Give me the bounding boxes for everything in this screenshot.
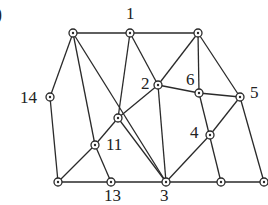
edge-B-6 [198,33,199,93]
node-label-1: 1 [126,4,135,23]
node-center-dot [110,181,112,183]
node-center-dot [263,181,265,183]
edge-2-3 [158,85,166,182]
edge-14-D [50,97,58,182]
node-center-dot [239,96,241,98]
node-label-14: 14 [20,88,38,107]
node-center-dot [220,181,222,183]
node-center-dot [72,32,74,34]
edge-C-2 [118,85,158,118]
edge-4-3 [166,135,210,182]
node-label-3: 3 [160,186,169,205]
edge-5-F [240,97,264,182]
edge-B-5 [198,33,240,97]
graph-edges [50,33,264,182]
node-center-dot [117,117,119,119]
node-center-dot [209,134,211,136]
node-label-11: 11 [106,135,122,154]
node-label-4: 4 [190,123,199,142]
node-label-5: 5 [250,83,259,102]
node-center-dot [94,144,96,146]
edge-A-14 [50,33,73,97]
edge-6-5 [199,93,240,97]
edge-1-C [118,33,130,118]
node-center-dot [165,181,167,183]
node-label-2: 2 [141,74,150,93]
edge-D-11 [58,145,95,182]
node-center-dot [197,32,199,34]
node-center-dot [157,84,159,86]
edge-5-4 [210,97,240,135]
figure-corner-label: ) [0,4,2,25]
graph-labels: 114265114133 [20,4,259,205]
node-center-dot [198,92,200,94]
node-center-dot [49,96,51,98]
node-center-dot [57,181,59,183]
node-label-13: 13 [104,186,121,205]
edge-C-3 [118,118,166,182]
node-label-6: 6 [186,70,195,89]
graph-diagram: ) 114265114133 [0,0,268,205]
node-center-dot [129,32,131,34]
graph-nodes [46,29,268,186]
